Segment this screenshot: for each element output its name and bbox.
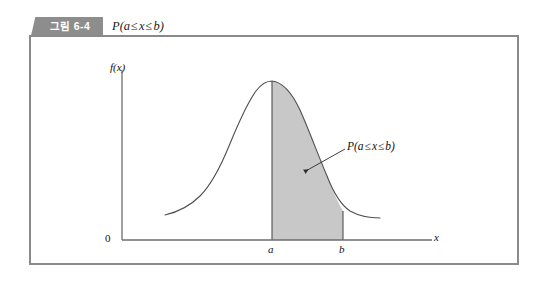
annotation-close: ) <box>391 140 395 152</box>
annotation-a: a <box>358 140 364 152</box>
x-axis-label: x <box>434 231 439 243</box>
figure-number-label: 그림 6-4 <box>31 17 103 36</box>
figure-frame <box>29 35 519 265</box>
figure-page: 그림 6-4 P(a≤x≤b) f(x) 0 a <box>0 0 549 282</box>
figure-number-tab: 그림 6-4 <box>31 17 103 36</box>
x-tick-a-text: a <box>268 243 274 255</box>
x-tick-b-text: b <box>339 243 345 255</box>
figure-title-x: x <box>139 19 145 33</box>
figure-title: P(a≤x≤b) <box>112 17 164 36</box>
probability-annotation: P(a≤x≤b) <box>347 140 395 152</box>
y-axis-label-text: f(x) <box>110 61 125 73</box>
annotation-p: P( <box>347 140 358 152</box>
origin-label: 0 <box>105 232 111 244</box>
y-axis-label: f(x) <box>110 61 125 73</box>
figure-title-le-1: ≤ <box>130 19 139 33</box>
x-tick-a: a <box>268 243 274 255</box>
figure-title-p: P( <box>112 19 124 33</box>
origin-label-text: 0 <box>105 232 111 244</box>
figure-title-close: ) <box>160 19 164 33</box>
x-axis-label-text: x <box>434 231 439 243</box>
x-tick-b: b <box>339 243 345 255</box>
annotation-le-1: ≤ <box>364 140 372 152</box>
